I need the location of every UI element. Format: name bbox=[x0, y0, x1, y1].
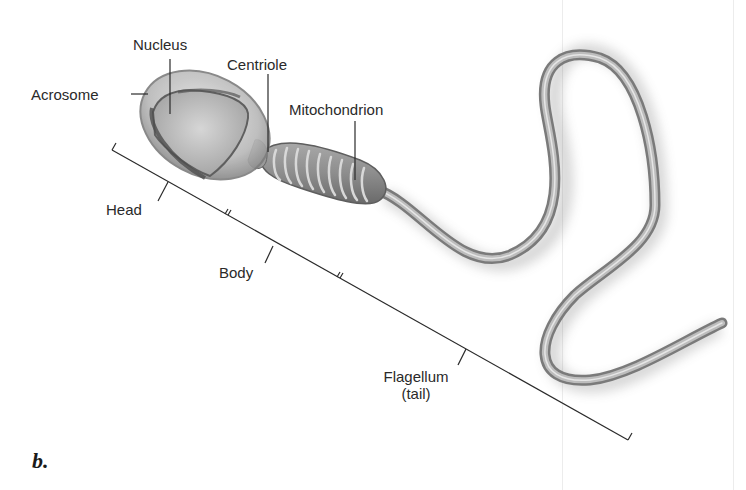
label-nucleus: Nucleus bbox=[133, 36, 187, 53]
label-acrosome: Acrosome bbox=[31, 86, 99, 103]
head-tick bbox=[158, 182, 168, 201]
head-body-divider bbox=[228, 210, 231, 215]
label-head: Head bbox=[106, 201, 142, 218]
label-mitochondrion: Mitochondrion bbox=[289, 101, 383, 118]
flagellum-tick bbox=[458, 349, 466, 365]
label-flagellum-line1: Flagellum bbox=[368, 368, 464, 385]
body-flagellum-divider bbox=[340, 273, 343, 278]
label-centriole: Centriole bbox=[227, 56, 287, 73]
label-body: Body bbox=[219, 264, 253, 281]
label-flagellum: Flagellum (tail) bbox=[368, 368, 464, 402]
midpiece-shape bbox=[261, 143, 386, 204]
body-tick bbox=[265, 246, 273, 263]
label-flagellum-line2: (tail) bbox=[368, 385, 464, 402]
panel-label: b. bbox=[32, 448, 49, 474]
sperm-cell-illustration bbox=[0, 0, 746, 490]
